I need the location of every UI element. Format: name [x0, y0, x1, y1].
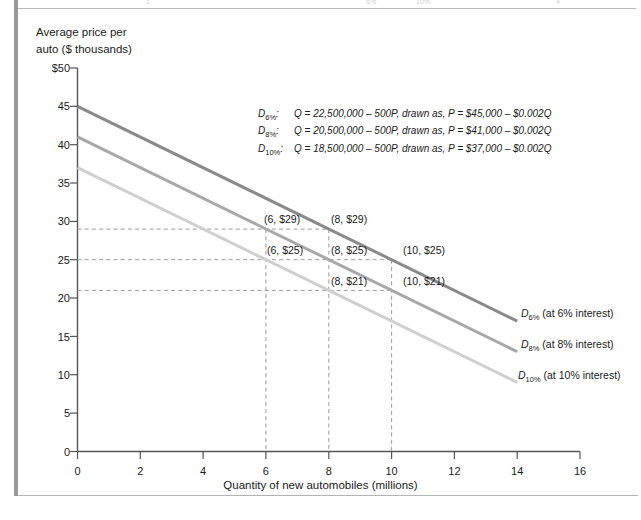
equation-text-d6: Q = 22,500,000 – 500P, drawn as, P = $45…: [294, 108, 551, 119]
curve-label-d8-text: (at 8% interest): [542, 338, 613, 350]
figure-frame: 1 6% 10% 4 Average price per auto ($ tho…: [0, 0, 641, 520]
x-axis-title: Quantity of new automobiles (millions): [0, 478, 641, 493]
equation-name-d8: D8%:: [258, 123, 294, 140]
x-tick-label-4: 4: [190, 464, 216, 479]
point-label-8-29: (8, $29): [331, 213, 367, 227]
y-tick-label-0: 0: [36, 445, 70, 460]
y-axis-ticks: [70, 68, 78, 452]
equations-block: D6%:Q = 22,500,000 – 500P, drawn as, P =…: [258, 106, 551, 158]
equation-row-d10: D10%:Q = 18,500,000 – 500P, drawn as, P …: [258, 141, 551, 158]
point-label-8-21: (8, $21): [331, 275, 367, 289]
chart-plot-area: [0, 0, 641, 520]
y-tick-label-20: 20: [36, 291, 70, 306]
curve-label-d8: D8% (at 8% interest): [521, 338, 614, 354]
x-tick-label-2: 2: [127, 464, 153, 479]
x-tick-label-6: 6: [253, 464, 279, 479]
curve-label-d6-text: (at 6% interest): [542, 307, 613, 319]
x-axis-ticks: [78, 452, 581, 460]
x-tick-label-0: 0: [65, 464, 91, 479]
y-tick-label-50: $50: [36, 61, 70, 76]
curve-label-d10-name: D10%: [518, 369, 541, 381]
y-tick-label-15: 15: [36, 330, 70, 345]
equation-text-d10: Q = 18,500,000 – 500P, drawn as, P = $37…: [294, 143, 551, 154]
equation-row-d8: D8%:Q = 20,500,000 – 500P, drawn as, P =…: [258, 123, 551, 140]
y-tick-label-30: 30: [36, 214, 70, 229]
y-tick-label-5: 5: [36, 406, 70, 421]
point-label-10-25: (10, $25): [403, 244, 445, 258]
curve-label-d6-name: D6%: [521, 307, 539, 319]
equation-text-d8: Q = 20,500,000 – 500P, drawn as, P = $41…: [294, 125, 551, 136]
equation-name-d10: D10%:: [258, 141, 294, 158]
curve-d10: [78, 168, 518, 383]
point-label-8-25: (8, $25): [331, 244, 367, 258]
point-label-6-29: (6, $29): [264, 213, 300, 227]
y-tick-label-45: 45: [36, 99, 70, 114]
x-tick-label-12: 12: [441, 464, 467, 479]
y-tick-label-40: 40: [36, 138, 70, 153]
y-tick-label-25: 25: [36, 253, 70, 268]
equation-row-d6: D6%:Q = 22,500,000 – 500P, drawn as, P =…: [258, 106, 551, 123]
curve-label-d10-text: (at 10% interest): [544, 369, 621, 381]
point-label-6-25: (6, $25): [267, 244, 303, 258]
equation-name-d6: D6%:: [258, 106, 294, 123]
x-tick-label-16: 16: [567, 464, 593, 479]
x-tick-label-10: 10: [379, 464, 405, 479]
guide-dashed-lines: [78, 229, 392, 451]
curve-label-d6: D6% (at 6% interest): [521, 307, 614, 323]
point-label-10-21: (10, $21): [403, 275, 445, 289]
curve-label-d10: D10% (at 10% interest): [518, 369, 621, 385]
x-tick-label-8: 8: [316, 464, 342, 479]
y-tick-label-10: 10: [36, 368, 70, 383]
x-tick-label-14: 14: [504, 464, 530, 479]
y-tick-label-35: 35: [36, 176, 70, 191]
curve-label-d8-name: D8%: [521, 338, 539, 350]
